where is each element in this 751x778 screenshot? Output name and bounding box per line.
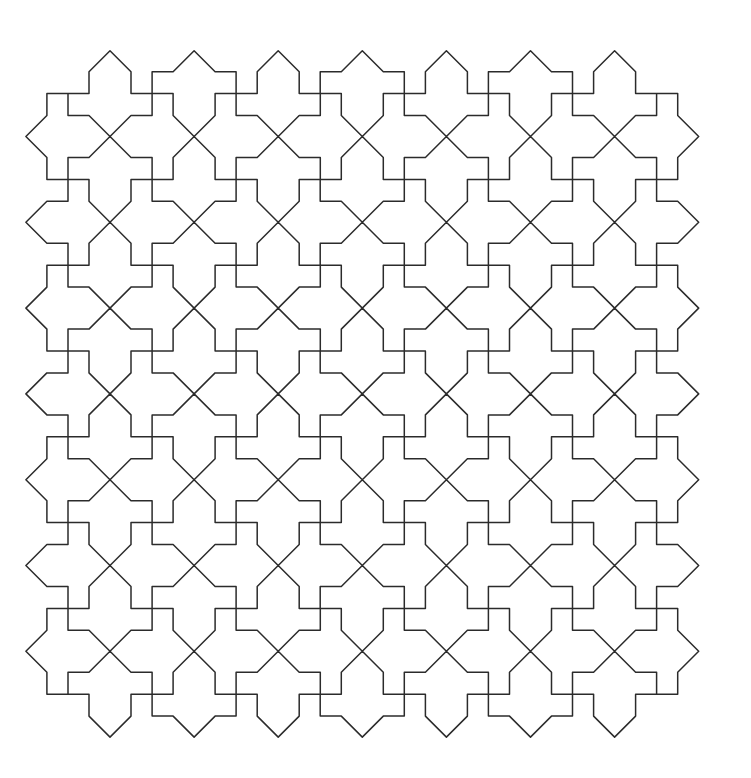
- background: [0, 0, 751, 778]
- tessellation-pattern: [0, 0, 751, 778]
- tessellation-figure: [0, 0, 751, 778]
